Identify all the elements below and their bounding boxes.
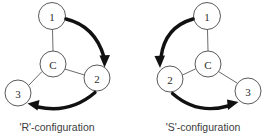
node-label-1: 1	[49, 11, 55, 23]
caption-r-configuration: 'R'-configuration	[19, 121, 94, 133]
node-label-1: 1	[204, 11, 210, 23]
node-label-2: 2	[167, 74, 173, 86]
node-label-2: 2	[94, 73, 100, 85]
bond-c-to-1	[208, 30, 209, 52]
node-label-c: C	[204, 59, 211, 71]
node-label-c: C	[49, 59, 56, 71]
node-label-3: 3	[245, 86, 251, 98]
chirality-figure: 1 C 2 3 'R'-configuration 1 C 2 3 '	[0, 0, 271, 140]
caption-s-configuration: 'S'-configuration	[166, 121, 241, 133]
bond-c-to-1	[53, 30, 54, 52]
node-label-3: 3	[15, 88, 21, 100]
